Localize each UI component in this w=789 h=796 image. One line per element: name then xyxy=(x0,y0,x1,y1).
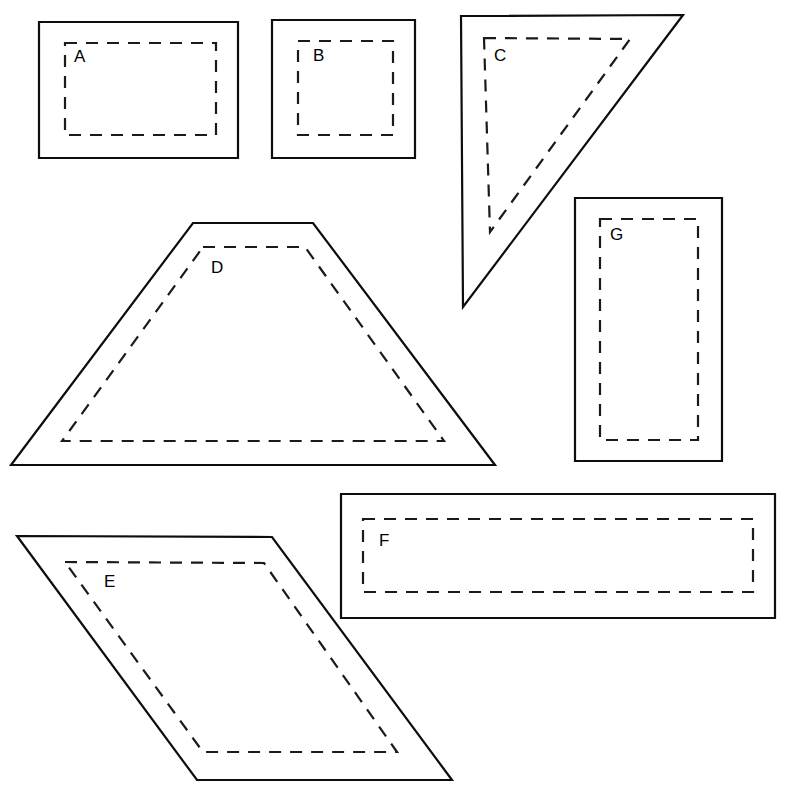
shape-outline-F[interactable] xyxy=(341,494,775,618)
shape-group-C[interactable]: C xyxy=(461,15,683,307)
shape-label-E: E xyxy=(104,572,115,591)
shape-outline-G[interactable] xyxy=(575,198,722,461)
shape-inset-F xyxy=(363,519,753,592)
shape-outline-E[interactable] xyxy=(17,536,452,780)
shape-label-G: G xyxy=(610,225,623,244)
shape-group-B[interactable]: B xyxy=(272,20,415,158)
shape-label-D: D xyxy=(211,258,223,277)
shape-label-C: C xyxy=(494,46,506,65)
shape-group-A[interactable]: A xyxy=(39,22,238,158)
shape-group-E[interactable]: E xyxy=(17,536,452,780)
shape-inset-A xyxy=(65,43,216,135)
shape-group-F[interactable]: F xyxy=(341,494,775,618)
shape-inset-G xyxy=(600,219,698,440)
shapes-diagram-canvas: A B C D E F G xyxy=(0,0,789,796)
shape-inset-D xyxy=(62,247,444,441)
shape-label-A: A xyxy=(74,47,86,66)
shape-group-D[interactable]: D xyxy=(11,223,495,465)
shape-inset-C xyxy=(484,38,630,232)
shape-group-G[interactable]: G xyxy=(575,198,722,461)
shape-outline-D[interactable] xyxy=(11,223,495,465)
shape-label-F: F xyxy=(379,531,389,550)
shape-label-B: B xyxy=(313,46,324,65)
